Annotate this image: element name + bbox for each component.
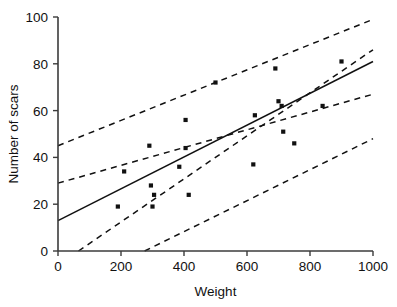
- data-point: [280, 104, 284, 108]
- y-tick-label: 60: [33, 104, 48, 119]
- regression-line-group: [58, 61, 373, 220]
- y-tick-label: 20: [33, 197, 48, 212]
- x-axis-title: Weight: [195, 284, 237, 299]
- interval-bands-group: [58, 19, 373, 251]
- y-axis-ticks: 020406080100: [25, 10, 58, 259]
- lower-confidence-band: [58, 94, 373, 183]
- y-tick-label: 40: [33, 150, 48, 165]
- data-point: [292, 141, 296, 145]
- data-point: [281, 130, 285, 134]
- data-point: [147, 144, 151, 148]
- data-point: [150, 204, 154, 208]
- data-point: [339, 59, 343, 63]
- data-point: [177, 165, 181, 169]
- x-tick-label: 200: [110, 259, 133, 274]
- x-tick-label: 800: [299, 259, 322, 274]
- data-point: [152, 193, 156, 197]
- data-point: [276, 99, 280, 103]
- x-tick-label: 400: [173, 259, 196, 274]
- data-point: [116, 204, 120, 208]
- y-axis-title: Number of scars: [6, 84, 21, 183]
- data-point: [187, 193, 191, 197]
- upper-prediction-band: [78, 50, 373, 251]
- y-tick-label: 100: [25, 10, 48, 25]
- x-axis-ticks: 02004006008001000: [54, 251, 388, 274]
- lower-prediction-band: [145, 139, 373, 251]
- x-tick-label: 0: [54, 259, 62, 274]
- plot-canvas: 02004006008001000 020406080100 Weight Nu…: [0, 0, 397, 307]
- y-tick-label: 0: [40, 244, 48, 259]
- data-point: [183, 118, 187, 122]
- data-point: [183, 146, 187, 150]
- regression-line: [58, 61, 373, 220]
- y-tick-label: 80: [33, 57, 48, 72]
- data-point: [122, 169, 126, 173]
- data-point: [149, 183, 153, 187]
- data-point: [321, 104, 325, 108]
- data-point: [213, 80, 217, 84]
- data-point: [273, 66, 277, 70]
- data-point: [253, 113, 257, 117]
- scatter-plot-figure: 02004006008001000 020406080100 Weight Nu…: [0, 0, 397, 307]
- x-tick-label: 600: [236, 259, 259, 274]
- x-tick-label: 1000: [358, 259, 388, 274]
- data-point: [251, 162, 255, 166]
